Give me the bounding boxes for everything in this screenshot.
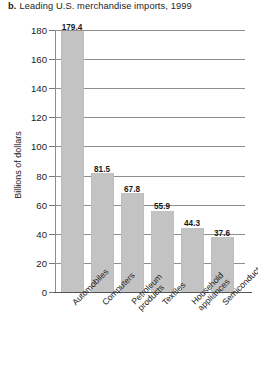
y-tick-label: 180 <box>31 25 47 36</box>
bar-value-label: 81.5 <box>94 165 110 174</box>
y-tick-label: 100 <box>31 141 47 152</box>
figure-caption-text: Leading U.S. merchandise imports, 1999 <box>19 1 191 11</box>
figure: b.Leading U.S. merchandise imports, 1999… <box>0 0 258 368</box>
y-tick-label: 160 <box>31 54 47 65</box>
bar-value-label: 55.9 <box>154 202 170 211</box>
x-axis-category-labels: Automobiles Computers Petroleum products… <box>0 296 258 368</box>
bar-value-label: 37.6 <box>214 229 230 238</box>
y-tick-label: 20 <box>36 257 47 268</box>
bar-value-label: 67.8 <box>124 185 140 194</box>
y-tick-label: 80 <box>36 170 47 181</box>
figure-caption: b.Leading U.S. merchandise imports, 1999 <box>8 1 192 11</box>
y-tick-label: 40 <box>36 228 47 239</box>
y-tick-label: 120 <box>31 112 47 123</box>
y-tick-label: 60 <box>36 199 47 210</box>
bar-automobiles <box>61 31 84 292</box>
bar-series: 179.4 81.5 67.8 55.9 44.3 37.6 <box>55 24 247 296</box>
figure-caption-label: b. <box>8 1 16 11</box>
bar-value-label: 179.4 <box>62 23 83 32</box>
y-tick-label: 140 <box>31 83 47 94</box>
bar-household-appliances <box>181 228 204 293</box>
bar-value-label: 44.3 <box>184 219 200 228</box>
y-axis-tick-labels: 0 20 40 60 80 100 120 140 160 180 <box>0 24 47 296</box>
